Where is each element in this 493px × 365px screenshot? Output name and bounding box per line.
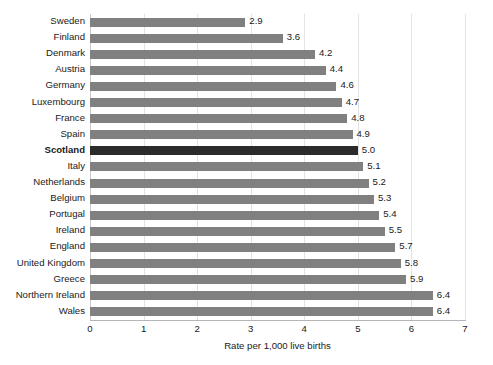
bar: [90, 243, 395, 252]
bar-row: England5.7: [90, 239, 465, 255]
bar: [90, 18, 245, 27]
plot-area: Sweden2.9Finland3.6Denmark4.2Austria4.4G…: [90, 14, 465, 320]
bar-row: Austria4.4: [90, 62, 465, 78]
category-label: France: [55, 112, 85, 124]
bar: [90, 98, 342, 107]
bar: [90, 195, 374, 204]
category-label: United Kingdom: [17, 257, 85, 269]
category-label: Belgium: [50, 192, 85, 204]
bar-value-label: 6.4: [437, 289, 450, 301]
bar-value-label: 5.1: [367, 160, 380, 172]
bar-value-label: 4.4: [330, 63, 343, 75]
bar-row: United Kingdom5.8: [90, 256, 465, 272]
bar-value-label: 5.4: [383, 208, 396, 220]
x-axis-line: [90, 320, 466, 321]
bar-value-label: 5.5: [389, 224, 402, 236]
bar-row: Denmark4.2: [90, 46, 465, 62]
x-tick-label: 5: [355, 323, 360, 334]
category-label: Denmark: [46, 47, 85, 59]
x-tick-label: 1: [141, 323, 146, 334]
bar-value-label: 5.0: [362, 144, 375, 156]
bar-value-label: 5.7: [399, 240, 412, 252]
x-tick-label: 7: [462, 323, 467, 334]
category-label: Wales: [59, 305, 85, 317]
bar-row: Finland3.6: [90, 30, 465, 46]
bar-value-label: 5.2: [373, 176, 386, 188]
category-label: Luxembourg: [32, 96, 85, 108]
category-label: Greece: [54, 273, 85, 285]
bar-value-label: 4.2: [319, 47, 332, 59]
bar: [90, 114, 347, 123]
category-label: Germany: [46, 79, 85, 91]
bar: [90, 307, 433, 316]
bar: [90, 82, 336, 91]
category-label: Portugal: [49, 208, 85, 220]
bar-row: Belgium5.3: [90, 191, 465, 207]
x-axis-title: Rate per 1,000 live births: [90, 340, 465, 351]
bar: [90, 211, 379, 220]
bar-value-label: 4.7: [346, 96, 359, 108]
bar-value-label: 4.8: [351, 112, 364, 124]
bar-row: Ireland5.5: [90, 223, 465, 239]
x-axis-tick-labels: 01234567: [90, 323, 465, 339]
bar: [90, 162, 363, 171]
bar: [90, 227, 385, 236]
bar-value-label: 5.8: [405, 257, 418, 269]
bar-row: Greece5.9: [90, 272, 465, 288]
bar: [90, 291, 433, 300]
bar-row: Northern Ireland6.4: [90, 288, 465, 304]
category-label: Scotland: [44, 144, 85, 156]
bar: [90, 50, 315, 59]
bar-value-label: 4.9: [357, 128, 370, 140]
gridline: [465, 14, 466, 320]
bar-row: Sweden2.9: [90, 14, 465, 30]
category-label: Spain: [60, 128, 85, 140]
bar: [90, 179, 369, 188]
bar: [90, 66, 326, 75]
bar: [90, 146, 358, 155]
category-label: Ireland: [56, 224, 85, 236]
bar: [90, 275, 406, 284]
category-label: England: [50, 240, 85, 252]
bar-value-label: 2.9: [249, 15, 262, 27]
bar-row: Luxembourg4.7: [90, 95, 465, 111]
x-tick-label: 0: [87, 323, 92, 334]
category-label: Netherlands: [33, 176, 85, 188]
bar-value-label: 3.6: [287, 31, 300, 43]
bar-row: Wales6.4: [90, 304, 465, 320]
bar: [90, 130, 353, 139]
bar: [90, 259, 401, 268]
x-tick-label: 2: [194, 323, 199, 334]
bar-row: Spain4.9: [90, 127, 465, 143]
bar-value-label: 5.3: [378, 192, 391, 204]
category-label: Sweden: [50, 15, 85, 27]
bar-value-label: 4.6: [340, 79, 353, 91]
category-label: Northern Ireland: [16, 289, 85, 301]
bar-row: Portugal5.4: [90, 207, 465, 223]
x-tick-label: 3: [248, 323, 253, 334]
category-label: Austria: [55, 63, 85, 75]
bar-row: Netherlands5.2: [90, 175, 465, 191]
bar-chart: Sweden2.9Finland3.6Denmark4.2Austria4.4G…: [0, 0, 493, 365]
bar: [90, 34, 283, 43]
x-tick-label: 4: [302, 323, 307, 334]
bar-row: Scotland5.0: [90, 143, 465, 159]
category-label: Finland: [54, 31, 85, 43]
bar-row: France4.8: [90, 111, 465, 127]
x-tick-label: 6: [409, 323, 414, 334]
bar-value-label: 6.4: [437, 305, 450, 317]
category-label: Italy: [67, 160, 85, 172]
bar-row: Germany4.6: [90, 78, 465, 94]
bar-row: Italy5.1: [90, 159, 465, 175]
bar-value-label: 5.9: [410, 273, 423, 285]
